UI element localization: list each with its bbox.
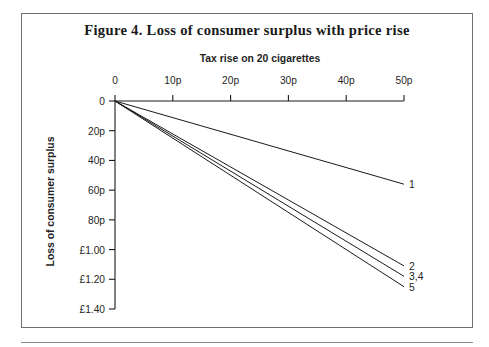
y-tick-label: 60p [57,185,105,196]
y-tick-label: 80p [57,214,105,225]
y-tick-label: £1.40 [57,304,105,315]
y-tick-label: 0 [57,96,105,107]
x-tick-label: 40p [338,75,355,86]
series-line-3 [115,101,404,276]
series-label: 1 [409,179,415,190]
x-tick-label: 10p [164,75,181,86]
x-tick-label: 0 [112,75,118,86]
x-tick-label: 20p [222,75,239,86]
series-line-1 [115,101,404,184]
series-label: 2 [409,260,415,271]
y-tick-label: 20p [57,125,105,136]
series-label: 3,4 [409,271,423,282]
series-line-2 [115,101,404,266]
y-tick-label: 40p [57,155,105,166]
x-tick-label: 30p [280,75,297,86]
x-tick-label: 50p [396,75,413,86]
figure-page: Figure 4. Loss of consumer surplus with … [0,0,489,347]
y-tick-label: £1.20 [57,274,105,285]
series-label: 5 [409,281,415,292]
page-rule [21,342,473,343]
chart-plot-area [0,0,489,347]
y-tick-label: £1.00 [57,244,105,255]
series-line-4 [115,101,404,287]
